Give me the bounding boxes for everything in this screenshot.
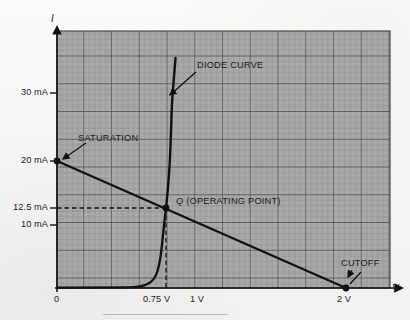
operating-point-text: (OPERATING POINT) — [183, 196, 280, 206]
y-tick-label-12-5ma: 12.5 mA — [0, 202, 48, 212]
figure-page: I V 30 mA 20 mA 12.5 mA 10 mA 0 0.75 V 1… — [0, 0, 410, 320]
x-tick-label-0-75v: 0.75 V — [143, 294, 170, 304]
page-bottom-rule — [103, 314, 228, 315]
diode-load-line-plot — [0, 0, 410, 320]
annotation-operating-point: Q (OPERATING POINT) — [176, 196, 281, 206]
y-tick-label-20ma: 20 mA — [0, 155, 48, 165]
y-axis-label: I — [51, 13, 54, 24]
annotation-diode-curve: DIODE CURVE — [197, 60, 263, 70]
annotation-cutoff: CUTOFF — [341, 258, 380, 268]
cutoff-point — [343, 285, 350, 292]
saturation-point — [54, 158, 61, 165]
x-tick-label-2v: 2 V — [337, 294, 351, 304]
y-tick-label-30ma: 30 mA — [0, 87, 48, 97]
q-operating-point — [163, 205, 170, 212]
annotation-saturation: SATURATION — [78, 133, 138, 143]
x-tick-label-1v: 1 V — [190, 294, 204, 304]
y-tick-label-10ma: 10 mA — [0, 219, 48, 229]
x-tick-label-0: 0 — [54, 294, 59, 304]
x-axis-label: V — [392, 283, 399, 294]
